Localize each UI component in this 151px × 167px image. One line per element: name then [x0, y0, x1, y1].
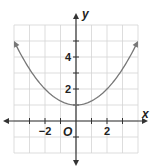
y-axis-label: y — [81, 7, 90, 21]
y-tick-label: 4 — [65, 51, 72, 63]
x-tick-label: −2 — [39, 125, 52, 137]
parabola-graph: x y O −2224 — [0, 0, 151, 167]
y-axis-down-arrow-icon — [73, 160, 79, 166]
x-tick-label: 2 — [104, 125, 110, 137]
axes — [3, 13, 148, 166]
y-axis-up-arrow-icon — [73, 13, 79, 19]
y-tick-label: 2 — [65, 83, 71, 95]
x-axis-left-arrow-icon — [3, 118, 9, 124]
x-axis-label: x — [141, 107, 150, 121]
origin-label: O — [63, 125, 73, 139]
